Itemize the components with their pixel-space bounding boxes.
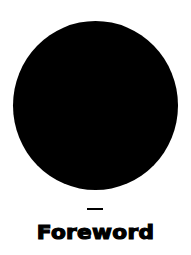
black-circle-graphic [13, 21, 178, 190]
page-title: Foreword [0, 219, 191, 245]
separator-dash [87, 208, 103, 210]
